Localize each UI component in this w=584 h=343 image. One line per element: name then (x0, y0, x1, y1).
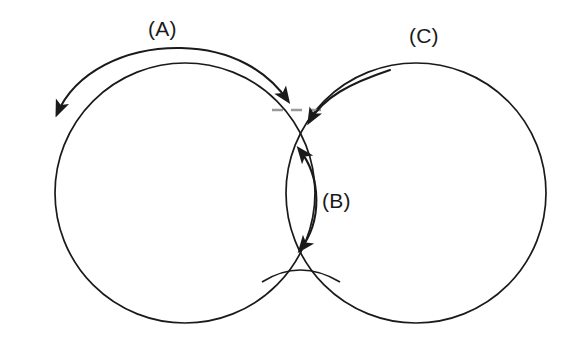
diagram-canvas (0, 0, 584, 343)
label-a: (A) (148, 18, 177, 39)
arrow-a-path (57, 48, 288, 114)
left-sphere-outline (55, 63, 315, 323)
label-c: (C) (409, 25, 439, 46)
figure-container: (A) (B) (C) (0, 0, 584, 343)
label-b: (B) (322, 190, 351, 211)
arrow-c-path (309, 70, 390, 122)
neck-bottom-bridge-arc (262, 270, 340, 282)
